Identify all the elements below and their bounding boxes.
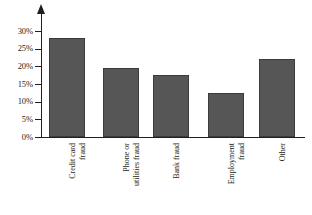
y-axis-label-15: 15% (0, 80, 33, 89)
y-axis-tick (35, 31, 41, 32)
bar-other[interactable] (259, 59, 295, 137)
y-axis-tick (35, 49, 41, 50)
bar-employment-fraud[interactable] (208, 93, 244, 137)
x-axis-label-text: Bank fraud (172, 143, 182, 213)
x-axis-line (41, 137, 305, 138)
bar-chart: 30% 25% 20% 15% 10% 5% 0% Credit cardfra… (0, 0, 312, 215)
x-axis-label-text: Other (278, 143, 288, 213)
bar-bank-fraud[interactable] (153, 75, 189, 137)
y-axis-label-0: 0% (0, 133, 33, 142)
x-axis-label-text: Employmentfraud (227, 143, 246, 213)
y-axis-label-25: 25% (0, 44, 33, 53)
y-axis-tick (35, 137, 41, 138)
y-axis-tick (35, 84, 41, 85)
x-axis-label-text: Credit cardfraud (68, 143, 87, 213)
y-axis-label-10: 10% (0, 97, 33, 106)
bar-phone-or-utilities-fraud[interactable] (103, 68, 139, 137)
plot-area: 30% 25% 20% 15% 10% 5% 0% Credit cardfra… (0, 0, 312, 215)
bar-credit-card-fraud[interactable] (49, 38, 85, 137)
y-axis-tick (35, 66, 41, 67)
y-axis-label-5: 5% (0, 115, 33, 124)
y-axis-tick (35, 119, 41, 120)
y-axis-tick (35, 102, 41, 103)
y-axis-label-30: 30% (0, 27, 33, 36)
y-axis-line (41, 12, 42, 138)
y-axis-label-20: 20% (0, 62, 33, 71)
x-axis-label-text: Phone orutilities fraud (122, 143, 141, 213)
